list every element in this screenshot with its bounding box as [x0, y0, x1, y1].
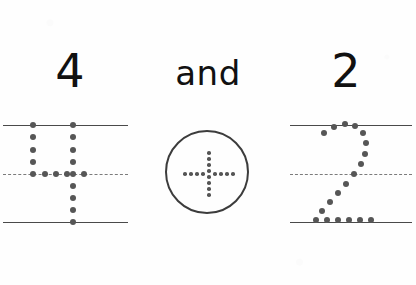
plus-dot-3 — [207, 169, 211, 173]
plus-dot-0 — [207, 151, 211, 155]
trace-dot-two-6 — [362, 151, 368, 157]
printed-numeral-four: 4 — [0, 48, 140, 94]
conjunction-label: and — [140, 56, 276, 90]
trace-dot-four-1 — [30, 134, 36, 140]
plus-dot-2 — [207, 163, 211, 167]
trace-dot-four-14 — [70, 183, 76, 189]
right-top-rule — [290, 125, 412, 126]
trace-dot-four-0 — [30, 122, 36, 128]
trace-dot-four-2 — [30, 147, 36, 153]
trace-dot-four-13 — [70, 159, 76, 165]
trace-dot-two-12 — [319, 208, 325, 214]
trace-dot-four-9 — [81, 171, 87, 177]
trace-dot-four-4 — [30, 171, 36, 177]
plus-dot-9 — [189, 172, 193, 176]
trace-dot-two-16 — [346, 217, 352, 223]
trace-dot-two-8 — [351, 171, 357, 177]
trace-dot-two-0 — [321, 130, 327, 136]
plus-dot-12 — [213, 172, 217, 176]
trace-dot-four-8 — [70, 171, 76, 177]
trace-dot-two-17 — [357, 217, 363, 223]
trace-dot-two-2 — [342, 121, 348, 127]
trace-dot-four-5 — [42, 171, 48, 177]
plus-dot-4 — [207, 175, 211, 179]
trace-dot-two-9 — [343, 181, 349, 187]
operator-circle-outline[interactable] — [165, 130, 249, 214]
trace-dot-four-17 — [70, 219, 76, 225]
printed-numeral-two: 2 — [276, 48, 416, 94]
plus-dot-11 — [201, 172, 205, 176]
left-top-rule — [3, 125, 128, 126]
trace-dot-two-14 — [324, 217, 330, 223]
trace-dot-two-13 — [313, 217, 319, 223]
operator-panel-middle: and — [140, 0, 276, 285]
trace-dot-two-3 — [352, 123, 358, 129]
plus-dot-1 — [207, 157, 211, 161]
trace-dot-two-15 — [335, 217, 341, 223]
trace-dot-two-11 — [327, 199, 333, 205]
trace-dot-four-15 — [70, 195, 76, 201]
plus-dot-10 — [195, 172, 199, 176]
trace-dot-two-4 — [360, 130, 366, 136]
trace-dot-four-11 — [70, 134, 76, 140]
plus-dot-6 — [207, 187, 211, 191]
plus-dot-15 — [231, 172, 235, 176]
trace-dot-two-1 — [331, 124, 337, 130]
plus-dot-8 — [183, 172, 187, 176]
plus-dot-7 — [207, 193, 211, 197]
trace-dot-two-18 — [368, 217, 374, 223]
worksheet-page: 4 and 2 — [0, 0, 416, 285]
numeral-panel-left: 4 — [0, 0, 140, 285]
trace-dot-two-7 — [358, 161, 364, 167]
plus-dot-5 — [207, 181, 211, 185]
left-baseline-rule — [3, 222, 128, 223]
trace-dot-four-12 — [70, 147, 76, 153]
trace-dot-four-10 — [70, 122, 76, 128]
trace-dot-two-5 — [363, 140, 369, 146]
trace-dot-four-16 — [70, 207, 76, 213]
plus-dot-14 — [225, 172, 229, 176]
trace-dot-four-6 — [53, 171, 59, 177]
plus-dot-13 — [219, 172, 223, 176]
trace-dot-four-3 — [30, 159, 36, 165]
trace-dot-two-10 — [335, 190, 341, 196]
plus-icon — [167, 132, 251, 216]
numeral-panel-right: 2 — [276, 0, 416, 285]
